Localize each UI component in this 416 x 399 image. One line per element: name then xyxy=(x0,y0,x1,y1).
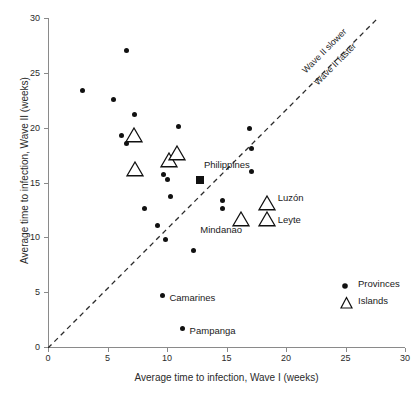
legend-label: Islands xyxy=(358,295,388,306)
x-tick-mark xyxy=(405,348,406,352)
x-tick-label: 30 xyxy=(395,353,415,363)
y-tick-mark xyxy=(44,237,48,238)
x-tick-label: 10 xyxy=(157,353,177,363)
data-point-province xyxy=(111,97,116,102)
x-tick-mark xyxy=(167,348,168,352)
y-tick-mark xyxy=(44,183,48,184)
filled-circle-icon xyxy=(340,279,354,293)
x-tick-mark xyxy=(108,348,109,352)
data-point-province xyxy=(220,206,225,211)
data-point-province xyxy=(247,126,252,131)
data-point-province xyxy=(80,88,85,93)
open-triangle-icon xyxy=(340,296,354,310)
y-axis-line xyxy=(48,18,49,348)
annotation-philippines: Philippines xyxy=(204,159,250,170)
x-tick-mark xyxy=(286,348,287,352)
y-tick-label: 0 xyxy=(24,342,40,352)
x-tick-mark xyxy=(48,348,49,352)
y-tick-mark xyxy=(44,292,48,293)
data-point-province xyxy=(220,198,225,203)
x-tick-label: 15 xyxy=(217,353,237,363)
y-tick-mark xyxy=(44,73,48,74)
annotation-mindanao: Mindanao xyxy=(200,224,242,235)
y-axis-title: Average time to infection, Wave II (week… xyxy=(19,51,30,291)
data-point-province xyxy=(168,194,173,199)
annotation-luzn: Luzón xyxy=(278,192,304,203)
data-point-province xyxy=(132,112,137,117)
y-tick-mark xyxy=(44,347,48,348)
x-tick-label: 0 xyxy=(38,353,58,363)
x-tick-mark xyxy=(227,348,228,352)
data-point-province xyxy=(165,177,170,182)
data-point-province xyxy=(163,237,168,242)
data-point-province xyxy=(249,146,254,151)
y-tick-label: 30 xyxy=(24,13,40,23)
data-point-province xyxy=(191,248,196,253)
legend-item-islands: Islands xyxy=(340,293,416,310)
annotation-pampanga: Pampanga xyxy=(190,325,236,336)
data-point-philippines xyxy=(196,176,204,184)
data-point-province xyxy=(176,124,181,129)
x-tick-label: 5 xyxy=(98,353,118,363)
legend-item-provinces: Provinces xyxy=(340,276,416,293)
x-tick-label: 25 xyxy=(336,353,356,363)
data-point-province xyxy=(124,48,129,53)
annotation-camarines: Camarines xyxy=(169,292,215,303)
y-tick-mark xyxy=(44,128,48,129)
legend-label: Provinces xyxy=(358,278,400,289)
data-point-province xyxy=(155,223,160,228)
x-axis-title: Average time to infection, Wave I (weeks… xyxy=(48,372,405,383)
scatter-plot: 051015202530 051015202530 Wave II slower… xyxy=(0,0,416,399)
annotation-leyte: Leyte xyxy=(278,214,301,225)
y-tick-mark xyxy=(44,18,48,19)
x-tick-label: 20 xyxy=(276,353,296,363)
x-tick-mark xyxy=(346,348,347,352)
legend: ProvincesIslands xyxy=(340,276,416,310)
data-point-province xyxy=(160,293,165,298)
data-point-province xyxy=(142,206,147,211)
reference-line-annotation: Wave II slower Wave II faster xyxy=(296,18,416,98)
data-point-province xyxy=(180,326,185,331)
